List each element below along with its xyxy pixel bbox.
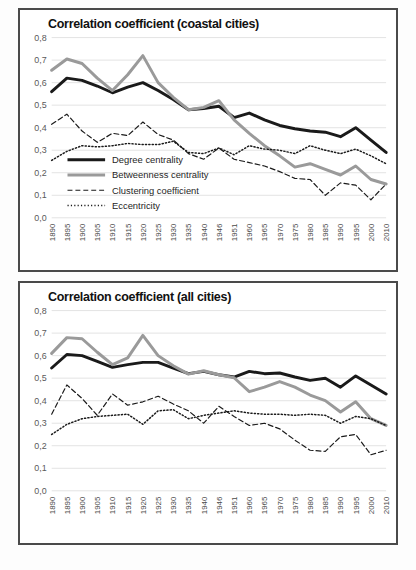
- y-axis-tick-label: 0,2: [34, 441, 46, 451]
- series-line-clustering-coefficient: [52, 114, 386, 200]
- x-axis-tick-label: 1915: [124, 223, 133, 241]
- chart-panel-all: Correlation coefficient (all cities) 0,0…: [18, 281, 398, 545]
- x-axis-tick-label: 1995: [352, 223, 361, 241]
- legend-label: Degree centrality: [112, 155, 183, 165]
- legend-label: Betweenness centrality: [112, 170, 209, 180]
- x-axis-tick-label: 1980: [306, 223, 315, 241]
- x-axis-tick-label: 1890: [48, 223, 57, 241]
- x-axis-tick-label: 1900: [78, 223, 87, 241]
- y-axis-tick-label: 0,7: [34, 328, 46, 338]
- y-axis-tick-label: 0,8: [34, 33, 46, 43]
- x-axis-tick-label: 1905: [93, 496, 102, 514]
- chart-page: Correlation coefficient (coastal cities)…: [0, 0, 416, 570]
- x-axis-tick-label: 2010: [382, 223, 391, 241]
- y-axis-tick-label: 0,6: [34, 351, 46, 361]
- x-axis-tick-label: 1990: [336, 223, 345, 241]
- x-axis-tick-label: 1915: [124, 496, 133, 514]
- x-axis-tick-label: 1985: [321, 223, 330, 241]
- x-axis-tick-label: 1935: [184, 223, 193, 241]
- x-axis-tick-label: 1895: [63, 496, 72, 514]
- y-axis-tick-label: 0,1: [34, 190, 46, 200]
- y-axis-tick-label: 0,8: [34, 306, 46, 316]
- legend-item-eccentricity: Eccentricity: [67, 201, 160, 211]
- x-axis-tick-label: 1910: [108, 496, 117, 514]
- x-axis-tick-label: 1925: [154, 223, 163, 241]
- y-axis-tick-label: 0,3: [34, 145, 46, 155]
- y-axis-tick-label: 0,5: [34, 100, 46, 110]
- x-axis-tick-label: 1970: [276, 223, 285, 241]
- line-chart-coastal: 0,00,10,20,30,40,50,60,70,81890189519001…: [20, 10, 396, 270]
- plot-area-all: 0,00,10,20,30,40,50,60,70,81890189519001…: [20, 283, 396, 543]
- legend-label: Clustering coefficient: [112, 186, 199, 196]
- series-line-clustering-coefficient: [52, 385, 386, 455]
- x-axis-tick-label: 1920: [139, 223, 148, 241]
- x-axis-tick-label: 1951: [230, 497, 239, 514]
- x-axis-tick-label: 1965: [260, 496, 269, 514]
- x-axis-tick-label: 1970: [276, 496, 285, 514]
- x-axis-tick-label: 1930: [169, 496, 178, 514]
- x-axis-tick-label: 1960: [245, 496, 254, 514]
- line-chart-all: 0,00,10,20,30,40,50,60,70,81890189519001…: [20, 283, 396, 543]
- y-axis-tick-label: 0,3: [34, 418, 46, 428]
- x-axis-tick-label: 1890: [48, 496, 57, 514]
- series-line-degree-centrality: [52, 78, 386, 152]
- x-axis-tick-label: 1975: [291, 223, 300, 241]
- legend-item-betweenness-centrality: Betweenness centrality: [67, 170, 208, 180]
- x-axis-tick-label: 2000: [367, 496, 376, 514]
- x-axis-tick-label: 1895: [63, 223, 72, 241]
- x-axis-tick-label: 1900: [78, 496, 87, 514]
- x-axis-tick-label: 1951: [230, 224, 239, 241]
- x-axis-tick-label: 1940: [200, 496, 209, 514]
- x-axis-tick-label: 1905: [93, 223, 102, 241]
- y-axis-tick-label: 0,5: [34, 373, 46, 383]
- x-axis-tick-label: 1925: [154, 496, 163, 514]
- series-line-betweenness-centrality: [52, 335, 386, 425]
- x-axis-tick-label: 1946: [215, 223, 224, 241]
- y-axis-tick-label: 0,2: [34, 168, 46, 178]
- x-axis-tick-label: 1990: [336, 496, 345, 514]
- x-axis-tick-label: 1935: [184, 496, 193, 514]
- y-axis-tick-label: 0,0: [34, 213, 46, 223]
- y-axis-tick-label: 0,6: [34, 78, 46, 88]
- x-axis-tick-label: 1940: [200, 223, 209, 241]
- y-axis-tick-label: 0,0: [34, 486, 46, 496]
- x-axis-tick-label: 1910: [108, 223, 117, 241]
- y-axis-tick-label: 0,7: [34, 55, 46, 65]
- x-axis-tick-label: 1985: [321, 496, 330, 514]
- x-axis-tick-label: 1995: [352, 496, 361, 514]
- legend-item-clustering-coefficient: Clustering coefficient: [67, 186, 199, 196]
- y-axis-tick-label: 0,1: [34, 463, 46, 473]
- y-axis-tick-label: 0,4: [34, 396, 46, 406]
- x-axis-tick-label: 1930: [169, 223, 178, 241]
- legend-item-degree-centrality: Degree centrality: [67, 155, 183, 165]
- x-axis-tick-label: 2000: [367, 223, 376, 241]
- series-line-betweenness-centrality: [52, 56, 386, 184]
- x-axis-tick-label: 1920: [139, 496, 148, 514]
- chart-panel-coastal: Correlation coefficient (coastal cities)…: [18, 8, 398, 272]
- y-axis-tick-label: 0,4: [34, 123, 46, 133]
- x-axis-tick-label: 1980: [306, 496, 315, 514]
- legend-label: Eccentricity: [112, 201, 160, 211]
- x-axis-tick-label: 1965: [260, 223, 269, 241]
- x-axis-tick-label: 1975: [291, 496, 300, 514]
- x-axis-tick-label: 1946: [215, 496, 224, 514]
- series-line-eccentricity: [52, 410, 386, 435]
- plot-area-coastal: 0,00,10,20,30,40,50,60,70,81890189519001…: [20, 10, 396, 270]
- x-axis-tick-label: 2010: [382, 496, 391, 514]
- x-axis-tick-label: 1960: [245, 223, 254, 241]
